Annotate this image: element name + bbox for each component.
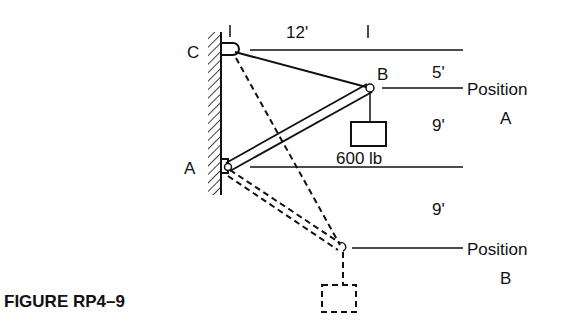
truss-diagram: C B A 12' 5' 9' 9' 600 lb Position A Pos… xyxy=(0,0,569,335)
position-a-label: Position xyxy=(467,80,527,99)
label-a: A xyxy=(184,159,196,178)
position-b-letter: B xyxy=(500,269,511,288)
dashed-position-b xyxy=(228,58,356,312)
dim-9ft-lower: 9' xyxy=(432,200,445,219)
dim-5ft: 5' xyxy=(432,63,445,82)
pin-position-b xyxy=(340,243,346,251)
label-c: C xyxy=(187,43,199,62)
pin-b xyxy=(366,84,374,92)
dim-9ft-upper: 9' xyxy=(432,116,445,135)
dim-12ft: 12' xyxy=(286,23,308,42)
position-a-letter: A xyxy=(500,109,512,128)
label-b: B xyxy=(377,65,388,84)
weight-box xyxy=(351,122,386,146)
figure-caption: FIGURE RP4–9 xyxy=(4,292,125,311)
cable-cb xyxy=(235,52,370,88)
weight-label: 600 lb xyxy=(336,149,382,168)
position-b-label: Position xyxy=(467,240,527,259)
wall xyxy=(208,32,221,195)
